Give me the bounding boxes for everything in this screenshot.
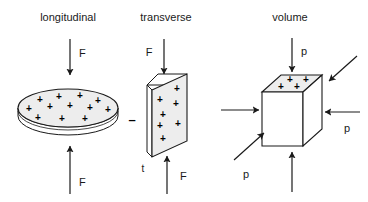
volume-top-pressure-label: p bbox=[301, 45, 307, 57]
plus-sign: + bbox=[173, 98, 179, 109]
cube-front-face bbox=[262, 92, 303, 146]
panel-title-volume: volume bbox=[272, 11, 307, 23]
plus-sign: + bbox=[174, 83, 180, 94]
figure-canvas: longitudinal F + + + + + bbox=[0, 0, 368, 202]
longitudinal-disc: + + + + + + + + + + + + bbox=[18, 89, 118, 135]
plus-sign: + bbox=[278, 81, 284, 92]
plus-sign: + bbox=[26, 103, 32, 114]
transverse-bottom-force-label: F bbox=[180, 170, 187, 182]
plus-sign: + bbox=[105, 104, 111, 115]
plus-sign: + bbox=[35, 112, 41, 123]
plus-sign: + bbox=[87, 102, 93, 113]
plus-sign: + bbox=[160, 109, 166, 120]
plus-sign: + bbox=[77, 90, 83, 101]
plus-sign: + bbox=[157, 94, 163, 105]
transverse-minus-label: – bbox=[128, 112, 135, 127]
plus-sign: + bbox=[160, 133, 166, 144]
panel-title-longitudinal: longitudinal bbox=[40, 11, 96, 23]
longitudinal-bottom-force-label: F bbox=[79, 176, 86, 188]
plus-sign: + bbox=[95, 95, 101, 106]
longitudinal-top-force-label: F bbox=[79, 47, 86, 59]
transverse-top-force-label: F bbox=[146, 46, 153, 58]
plus-sign: + bbox=[157, 120, 163, 131]
transverse-thickness-label: t bbox=[142, 163, 145, 174]
panel-title-transverse: transverse bbox=[140, 11, 191, 23]
volume-cube: + + + + bbox=[262, 74, 322, 146]
plus-sign: + bbox=[175, 118, 181, 129]
volume-front-pressure-label: p bbox=[243, 168, 249, 180]
plus-sign: + bbox=[82, 113, 88, 124]
plus-sign: + bbox=[47, 101, 53, 112]
plus-sign: + bbox=[59, 113, 65, 124]
plus-sign: + bbox=[67, 100, 73, 111]
plus-sign: + bbox=[56, 91, 62, 102]
plus-sign: + bbox=[37, 94, 43, 105]
plate-left-edge bbox=[147, 85, 152, 157]
plus-sign: + bbox=[287, 74, 293, 85]
plus-sign: + bbox=[294, 81, 300, 92]
piezoelectric-effects-figure: longitudinal F + + + + + bbox=[0, 0, 368, 202]
volume-right-pressure-label: p bbox=[344, 122, 350, 134]
plus-sign: + bbox=[303, 74, 309, 85]
